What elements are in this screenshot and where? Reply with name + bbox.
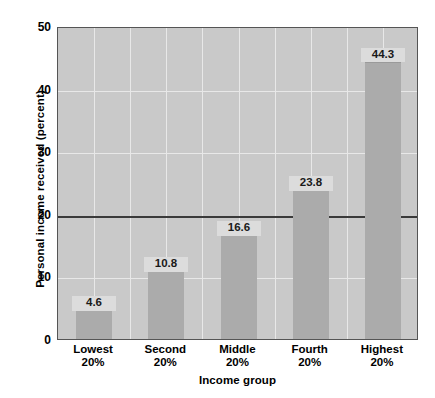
y-axis-tick-label: 30 [20, 146, 51, 158]
y-axis-tick-label: 20 [20, 209, 51, 221]
vertical-gridline [275, 28, 276, 339]
x-axis-tick-label-line2: 20% [129, 356, 201, 369]
y-axis-tick-label: 50 [20, 21, 51, 33]
x-axis-tick-label: Lowest20% [57, 343, 129, 369]
x-axis-tick-label-line2: 20% [274, 356, 346, 369]
x-axis-tick-label-line2: 20% [201, 356, 273, 369]
x-axis-tick-label-line1: Lowest [73, 343, 113, 355]
bar-value-label: 23.8 [289, 176, 333, 191]
x-axis-title: Income group [57, 374, 418, 386]
x-axis-tick-label-line1: Second [145, 343, 187, 355]
y-axis-tick-labels: 01020304050 [20, 0, 51, 398]
x-axis-tick-label: Highest20% [346, 343, 418, 369]
y-axis-tick-label: 40 [20, 84, 51, 96]
reference-line-20 [58, 216, 417, 218]
horizontal-gridline [58, 91, 417, 92]
x-axis-tick-label-line2: 20% [346, 356, 418, 369]
x-axis-tick-label-line2: 20% [57, 356, 129, 369]
bar-chart-figure: Personal income received (percent) 01020… [0, 0, 435, 398]
bar-value-label: 4.6 [72, 296, 116, 311]
vertical-gridline [202, 28, 203, 339]
y-axis-tick-label: 0 [20, 334, 51, 346]
bar [148, 271, 184, 339]
bar [365, 62, 401, 339]
x-axis-tick-label: Middle20% [201, 343, 273, 369]
x-axis-tick-label: Fourth20% [274, 343, 346, 369]
bar [221, 235, 257, 339]
bar-value-label: 44.3 [361, 48, 405, 63]
bar-value-label: 10.8 [144, 257, 188, 272]
x-axis-tick-label: Second20% [129, 343, 201, 369]
x-axis-tick-label-line1: Fourth [291, 343, 327, 355]
y-axis-tick-label: 10 [20, 271, 51, 283]
x-axis-tick-label-line1: Highest [361, 343, 403, 355]
bar [293, 190, 329, 339]
bar-value-label: 16.6 [217, 221, 261, 236]
vertical-gridline [130, 28, 131, 339]
bar [76, 310, 112, 339]
vertical-gridline [94, 28, 95, 339]
horizontal-gridline [58, 153, 417, 154]
vertical-gridline [347, 28, 348, 339]
plot-area: 4.610.816.623.844.3 [57, 27, 418, 340]
x-axis-tick-label-line1: Middle [219, 343, 255, 355]
